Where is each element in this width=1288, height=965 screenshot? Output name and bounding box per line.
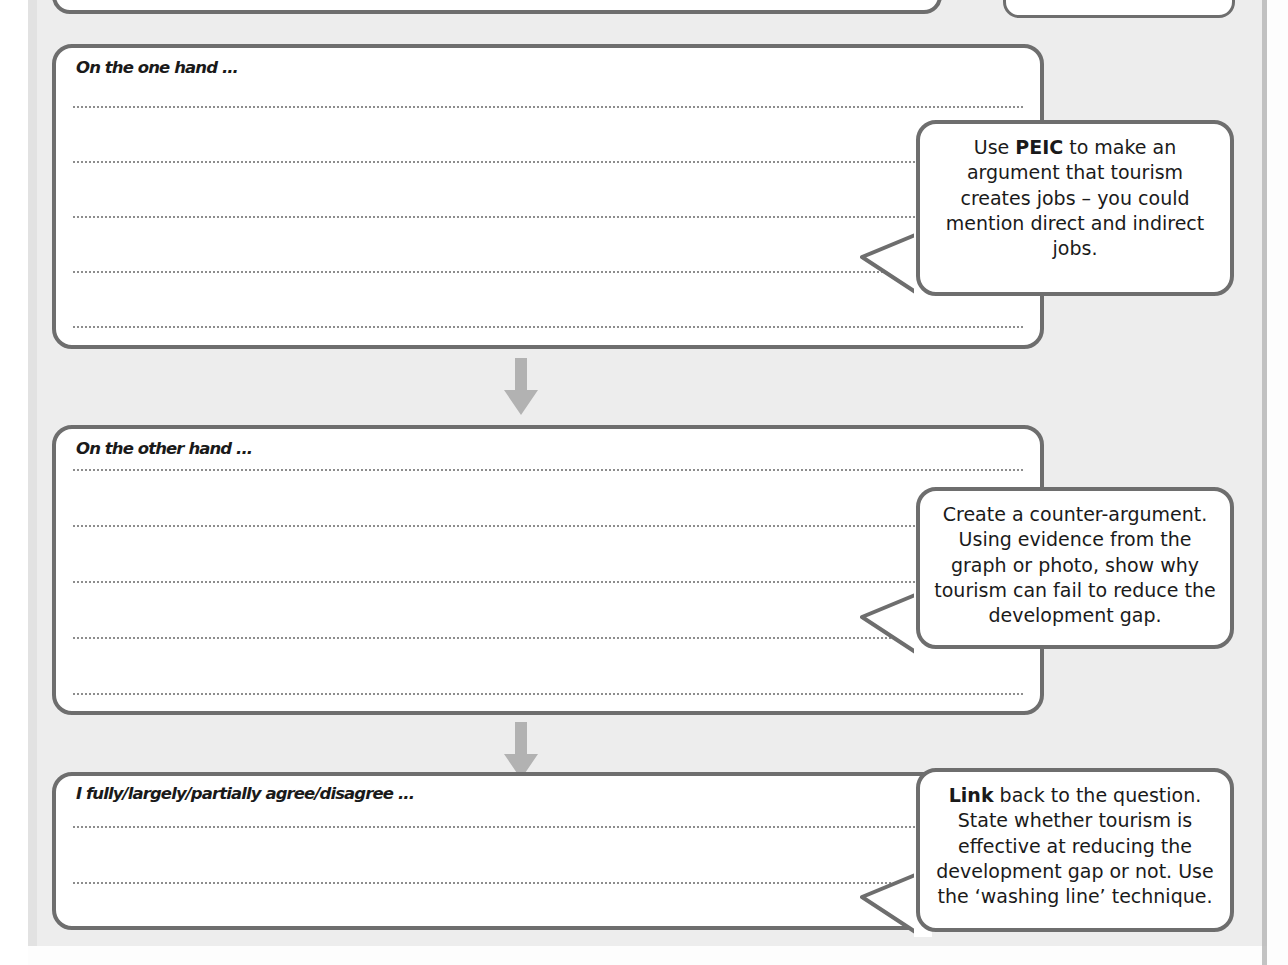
answer-box-conclusion[interactable]: I fully/largely/partially agree/disagree… — [52, 772, 1044, 930]
hint-bubble-link: Link back to the question. State whether… — [916, 768, 1234, 932]
writing-line[interactable] — [73, 271, 1023, 273]
writing-line[interactable] — [73, 106, 1023, 108]
page-outer-edge — [1267, 0, 1288, 965]
partial-box-above-left — [52, 0, 942, 14]
writing-line[interactable] — [73, 637, 1023, 639]
answer-box-on-the-one-hand[interactable]: On the one hand ... — [52, 44, 1044, 349]
hint-bubble-counter-argument: Create a counter-argument. Using evidenc… — [916, 487, 1234, 649]
writing-line[interactable] — [73, 525, 1023, 527]
writing-line[interactable] — [73, 882, 1023, 884]
writing-line[interactable] — [73, 326, 1023, 328]
hint-bubble-peic-text: Use PEIC to make an argument that touris… — [946, 136, 1204, 259]
hint-bubble-link-text: Link back to the question. State whether… — [936, 784, 1213, 907]
worksheet-page: On the one hand ... Use PEIC to make an … — [0, 0, 1288, 965]
writing-line[interactable] — [73, 826, 1023, 828]
writing-line[interactable] — [73, 469, 1023, 471]
writing-line[interactable] — [73, 216, 1023, 218]
page-left-margin — [28, 0, 37, 965]
hint-bubble-counter-argument-text: Create a counter-argument. Using evidenc… — [934, 503, 1215, 626]
answer-box-on-the-other-hand[interactable]: On the other hand ... — [52, 425, 1044, 715]
hint-bubble-peic: Use PEIC to make an argument that touris… — [916, 120, 1234, 296]
partial-bubble-above-right — [1003, 0, 1235, 18]
section-heading-other-hand: On the other hand ... — [76, 439, 252, 458]
down-arrow-icon — [503, 358, 539, 416]
writing-line[interactable] — [73, 693, 1023, 695]
page-bottom-edge — [28, 946, 1268, 965]
writing-line[interactable] — [73, 161, 1023, 163]
writing-line[interactable] — [73, 581, 1023, 583]
section-heading-conclusion: I fully/largely/partially agree/disagree… — [76, 784, 414, 803]
section-heading-one-hand: On the one hand ... — [76, 58, 238, 77]
